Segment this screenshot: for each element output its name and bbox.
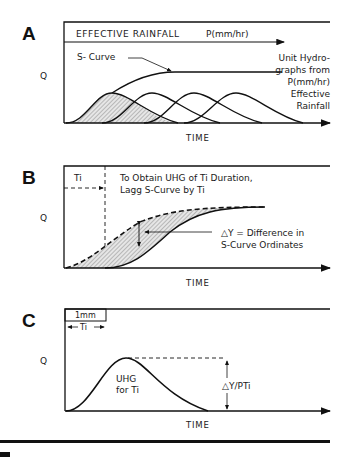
rainfall-label: EFFECTIVE RAINFALL xyxy=(76,29,180,39)
rainfall-unit: P(mm/hr) xyxy=(206,29,248,39)
rainfall-block-label: 1mm xyxy=(75,311,96,320)
delta-note: △Y = Difference in S-Curve Ordinates xyxy=(221,228,304,250)
panel-c-label: C xyxy=(22,310,36,331)
s-curve-hydrograph-figure: A EFFECTIVE RAINFALL P(mm/hr) S- Curve U… xyxy=(0,0,343,457)
svg-text:Lagg S-Curve by Ti: Lagg S-Curve by Ti xyxy=(120,185,205,195)
svg-text:To Obtain UHG of Ti Duration,: To Obtain UHG of Ti Duration, xyxy=(119,173,253,183)
ratio-label: △Y/PTi xyxy=(222,381,251,391)
time-axis-label: TIME xyxy=(185,278,210,288)
panel-c: C 1mm Ti △Y/PTi UHG for Ti Q TIME xyxy=(22,309,330,430)
svg-text:graphs from: graphs from xyxy=(275,65,330,75)
q-axis-label: Q xyxy=(40,213,47,223)
svg-text:S-Curve Ordinates: S-Curve Ordinates xyxy=(221,240,303,250)
panel-b-label: B xyxy=(22,167,36,188)
panel-c-frame xyxy=(65,309,330,411)
q-axis-label: Q xyxy=(40,71,47,81)
first-uh-hatch xyxy=(66,93,176,123)
uhg-label: UHG for Ti xyxy=(116,374,139,395)
ti-label: Ti xyxy=(79,323,87,332)
lag-note: To Obtain UHG of Ti Duration, Lagg S-Cur… xyxy=(119,173,253,195)
panel-b: B Ti To Obtain UHG of Ti Duration, Lagg … xyxy=(22,166,330,288)
caption-rule xyxy=(0,440,330,443)
s-curve-label: S- Curve xyxy=(77,52,116,62)
svg-text:for Ti: for Ti xyxy=(116,385,139,395)
s-curve-pointer xyxy=(128,58,171,71)
svg-text:Unit Hydro-: Unit Hydro- xyxy=(279,53,330,63)
q-axis-label: Q xyxy=(40,356,47,366)
svg-text:△Y = Difference in: △Y = Difference in xyxy=(221,228,304,238)
panel-a: A EFFECTIVE RAINFALL P(mm/hr) S- Curve U… xyxy=(22,22,330,143)
time-axis-label: TIME xyxy=(185,133,210,143)
svg-text:Effective: Effective xyxy=(291,89,331,99)
svg-text:UHG: UHG xyxy=(116,374,136,384)
svg-text:Rainfall: Rainfall xyxy=(297,101,330,111)
svg-text:P(mm/hr): P(mm/hr) xyxy=(288,77,330,87)
uh-note: Unit Hydro- graphs from P(mm/hr) Effecti… xyxy=(275,53,330,111)
ti-label: Ti xyxy=(73,173,82,183)
s-curve xyxy=(112,72,282,93)
panel-a-label: A xyxy=(22,23,36,44)
time-axis-label: TIME xyxy=(185,420,210,430)
caption-fragment xyxy=(0,452,10,457)
